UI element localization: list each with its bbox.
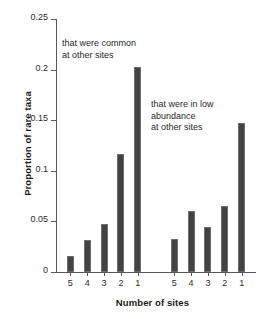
bar [204,227,211,272]
x-axis-tick [174,272,175,276]
x-axis-tick-label: 1 [232,278,252,288]
y-axis-tick-label: 0 [43,265,48,275]
y-axis-tick: 0.05 [51,221,56,222]
x-axis-tick [225,272,226,276]
bar-chart-figure: Proportion of rare taxa Number of sites … [0,0,268,319]
bar [117,154,124,272]
x-axis-tick [242,272,243,276]
bar [221,206,228,272]
bar [101,224,108,272]
bar [134,67,141,272]
y-axis-tick: 0 [51,272,56,273]
x-axis-tick [121,272,122,276]
bar [84,240,91,272]
bar [67,256,74,272]
y-axis-label: Proportion of rare taxa [22,59,33,229]
y-axis-line [56,19,57,272]
y-axis-tick: 0.15 [51,120,56,121]
y-axis-tick-label: 0.15 [30,113,48,123]
x-axis-tick [70,272,71,276]
y-axis-tick-label: 0.05 [30,214,48,224]
y-axis-tick: 0.1 [51,171,56,172]
x-axis-tick [87,272,88,276]
x-axis-tick [191,272,192,276]
y-axis-tick-label: 0.1 [35,164,48,174]
bar [238,123,245,272]
x-axis-tick [138,272,139,276]
y-axis-tick: 0.25 [51,19,56,20]
bar [171,239,178,272]
x-axis-label: Number of sites [50,297,255,308]
bar [188,211,195,272]
x-axis-tick [104,272,105,276]
y-axis-tick-label: 0.25 [30,12,48,22]
annotation-common-at-other-sites: that were common at other sites [62,38,136,61]
y-axis-tick-label: 0.2 [35,63,48,73]
y-axis-tick: 0.2 [51,70,56,71]
annotation-low-abundance-at-other-sites: that were in low abundance at other site… [151,99,214,134]
x-axis-tick-label: 1 [128,278,148,288]
x-axis-line [56,272,256,273]
x-axis-tick [208,272,209,276]
